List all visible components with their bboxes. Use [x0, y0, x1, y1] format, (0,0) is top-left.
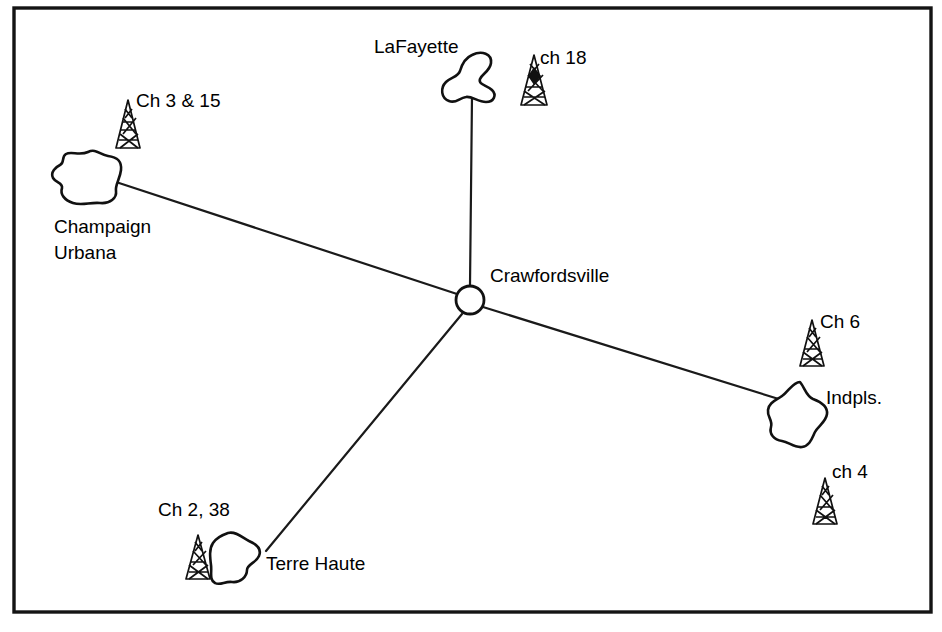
tower-icon-terre-haute[interactable] — [186, 535, 210, 579]
label-indianapolis: Indpls. — [826, 387, 882, 408]
lafayette-blob-shape — [442, 53, 494, 102]
label-champaign: Champaign — [54, 216, 151, 237]
link-crawfordsville-champaign — [116, 182, 457, 294]
label-tower-champaign: Ch 3 & 15 — [136, 90, 221, 111]
label-tower-terre-haute: Ch 2, 38 — [158, 499, 230, 520]
label-lafayette: LaFayette — [374, 36, 459, 57]
city-blob-lafayette[interactable] — [442, 53, 494, 102]
network-map-svg: LaFayette Crawfordsville Champaign Urban… — [0, 0, 942, 632]
city-blob-indianapolis[interactable] — [768, 382, 827, 447]
hub-node-crawfordsville[interactable] — [456, 286, 484, 314]
city-blob-terre-haute[interactable] — [210, 533, 260, 584]
label-terre-haute: Terre Haute — [266, 553, 365, 574]
link-crawfordsville-terrehaute — [266, 314, 462, 551]
champaign-blob-shape — [52, 151, 121, 204]
label-tower-indianapolis-4: ch 4 — [832, 461, 868, 482]
terre-haute-blob-shape — [210, 533, 260, 584]
label-tower-indianapolis-6: Ch 6 — [820, 311, 860, 332]
label-urbana: Urbana — [54, 242, 117, 263]
link-crawfordsville-lafayette — [470, 96, 472, 286]
link-crawfordsville-indianapolis — [483, 307, 782, 400]
label-crawfordsville: Crawfordsville — [490, 265, 609, 286]
indianapolis-blob-shape — [768, 382, 827, 447]
label-tower-lafayette: ch 18 — [540, 47, 586, 68]
link-group — [116, 96, 782, 551]
diagram-canvas: LaFayette Crawfordsville Champaign Urban… — [0, 0, 942, 632]
tower-icon-indianapolis-4[interactable] — [813, 478, 837, 524]
city-blob-champaign-urbana[interactable] — [52, 151, 121, 204]
